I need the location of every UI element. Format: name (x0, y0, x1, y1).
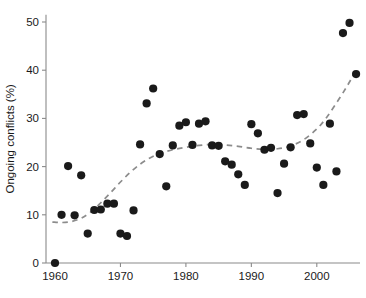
y-tick-label: 10 (26, 209, 39, 221)
data-point (77, 171, 85, 179)
data-point (64, 162, 72, 170)
data-point (273, 189, 281, 197)
y-axis-title: Ongoing conflicts (%) (4, 84, 16, 193)
data-point (267, 144, 275, 152)
data-point (129, 206, 137, 214)
data-point (280, 160, 288, 168)
chart-canvas: 01020304050 19601970198019902000 Ongoing… (0, 0, 366, 298)
x-tick-label: 1990 (239, 270, 265, 282)
data-point (254, 129, 262, 137)
trend-line (52, 75, 353, 222)
x-axis-ticks: 19601970198019902000 (42, 263, 329, 282)
y-tick-label: 40 (26, 64, 39, 76)
data-point (97, 205, 105, 213)
data-point (339, 29, 347, 37)
y-axis-ticks: 01020304050 (26, 16, 46, 269)
data-point (188, 141, 196, 149)
data-point (57, 211, 65, 219)
data-point (352, 70, 360, 78)
scatter-chart: 01020304050 19601970198019902000 Ongoing… (0, 0, 366, 298)
data-point (136, 140, 144, 148)
data-point (162, 182, 170, 190)
trend-line-path (52, 75, 353, 222)
data-point (149, 84, 157, 92)
x-tick-label: 1960 (42, 270, 68, 282)
data-point (300, 110, 308, 118)
data-point (51, 259, 59, 267)
y-tick-label: 30 (26, 112, 39, 124)
data-point (215, 142, 223, 150)
data-point (326, 120, 334, 128)
data-point (110, 200, 118, 208)
x-tick-label: 1970 (108, 270, 134, 282)
data-point (319, 181, 327, 189)
data-point (169, 141, 177, 149)
data-point (332, 167, 340, 175)
data-points (51, 19, 360, 267)
data-point (345, 19, 353, 27)
axes-group (46, 15, 360, 263)
data-point (313, 163, 321, 171)
y-tick-label: 50 (26, 16, 39, 28)
data-point (241, 181, 249, 189)
x-tick-label: 1980 (173, 270, 199, 282)
data-point (182, 118, 190, 126)
data-point (123, 232, 131, 240)
x-tick-label: 2000 (304, 270, 330, 282)
data-point (228, 161, 236, 169)
data-point (71, 211, 79, 219)
data-point (156, 150, 164, 158)
data-point (287, 143, 295, 151)
data-point (247, 120, 255, 128)
y-tick-label: 0 (33, 257, 39, 269)
data-point (306, 139, 314, 147)
y-tick-label: 20 (26, 161, 39, 173)
data-point (84, 230, 92, 238)
data-point (201, 117, 209, 125)
data-point (234, 170, 242, 178)
data-point (143, 99, 151, 107)
